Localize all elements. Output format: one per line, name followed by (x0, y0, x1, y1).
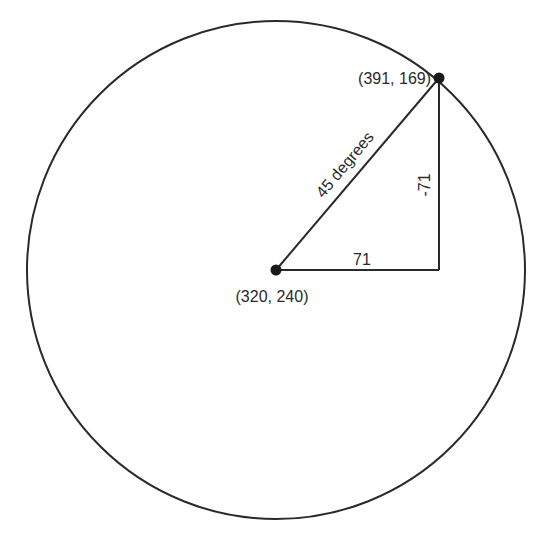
diagram-canvas: (320, 240) (391, 169) 71 -71 45 degrees (0, 0, 549, 549)
horizontal-leg-label: 71 (353, 251, 371, 268)
center-point-dot (271, 265, 282, 276)
edge-point-label: (391, 169) (358, 70, 431, 87)
edge-point-dot (434, 73, 445, 84)
vertical-leg-label: -71 (416, 173, 433, 196)
hypotenuse-line (276, 78, 439, 270)
center-point-label: (320, 240) (236, 288, 309, 305)
